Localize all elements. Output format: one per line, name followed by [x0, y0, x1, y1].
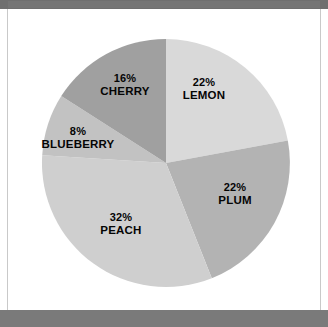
- pie-label-plum-percent: 22%: [199, 181, 271, 194]
- pie-label-cherry-name: CHERRY: [79, 85, 171, 99]
- page-top-bar: [0, 0, 328, 9]
- pie-chart-svg: [0, 0, 328, 310]
- pie-label-blueberry: 8% BLUEBERRY: [24, 125, 132, 152]
- pie-label-peach-name: PEACH: [79, 224, 163, 238]
- pie-label-lemon-percent: 22%: [166, 76, 242, 89]
- page-canvas: 22% LEMON 22% PLUM 32% PEACH 8% BLUEBERR…: [0, 0, 328, 327]
- pie-label-plum: 22% PLUM: [199, 181, 271, 208]
- pie-label-lemon: 22% LEMON: [166, 76, 242, 103]
- pie-label-blueberry-name: BLUEBERRY: [24, 138, 132, 152]
- pie-label-cherry-percent: 16%: [79, 72, 171, 85]
- pie-label-blueberry-percent: 8%: [24, 125, 132, 138]
- pie-label-peach-percent: 32%: [79, 211, 163, 224]
- pie-label-cherry: 16% CHERRY: [79, 72, 171, 99]
- pie-label-plum-name: PLUM: [199, 194, 271, 208]
- page-top-bar-inner: [8, 1, 320, 8]
- page-bottom-bar: [0, 310, 328, 327]
- pie-chart: 22% LEMON 22% PLUM 32% PEACH 8% BLUEBERR…: [0, 0, 328, 310]
- pie-label-peach: 32% PEACH: [79, 211, 163, 238]
- pie-label-lemon-name: LEMON: [166, 89, 242, 103]
